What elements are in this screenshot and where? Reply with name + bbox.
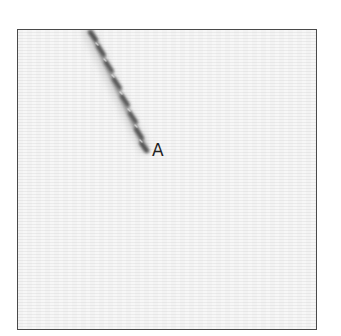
twisted-filament <box>18 30 317 330</box>
image-panel: A <box>17 29 317 330</box>
panel-label: A <box>152 142 164 159</box>
